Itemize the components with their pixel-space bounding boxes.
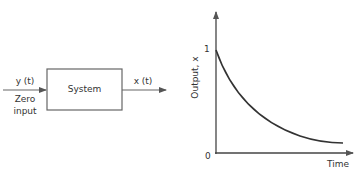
y-axis-label: Output, x bbox=[191, 53, 200, 103]
zero-input-note-line2: input bbox=[8, 107, 42, 116]
y-tick-1: 1 bbox=[204, 45, 210, 54]
y-tick-0: 0 bbox=[205, 152, 211, 161]
system-label: System bbox=[47, 85, 122, 94]
x-axis-label: Time bbox=[327, 160, 349, 169]
output-label: x (t) bbox=[128, 77, 158, 86]
zero-input-note-line1: Zero bbox=[8, 95, 42, 104]
input-label: y (t) bbox=[10, 77, 40, 86]
decay-curve bbox=[216, 50, 343, 143]
